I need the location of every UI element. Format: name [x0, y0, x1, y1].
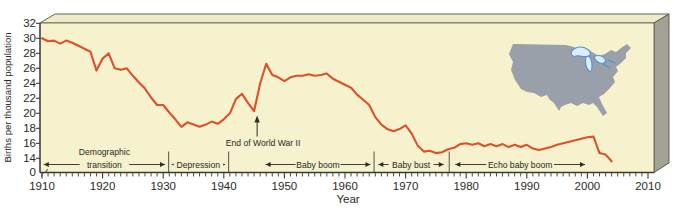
- x-tick-label-2000: 2000: [575, 180, 601, 192]
- period-label-demographic-transition-line1: Demographic: [79, 147, 131, 157]
- x-tick-label-1960: 1960: [332, 180, 358, 192]
- y-tick-label-22: 22: [23, 92, 36, 104]
- y-tick-label-16: 16: [23, 137, 36, 149]
- y-tick-label-14: 14: [23, 152, 36, 164]
- x-tick-label-1990: 1990: [514, 180, 540, 192]
- x-axis-ticks: 1910192019301940195019601970198019902000…: [29, 173, 661, 192]
- period-label-baby-bust: Baby bust: [392, 160, 431, 170]
- x-tick-label-2010: 2010: [635, 180, 661, 192]
- y-tick-label-24: 24: [23, 77, 36, 89]
- x-tick-label-1920: 1920: [90, 180, 116, 192]
- y-tick-label-32: 32: [23, 17, 36, 29]
- x-tick-label-1930: 1930: [150, 180, 176, 192]
- y-tick-label-18: 18: [23, 122, 36, 134]
- x-tick-label-1940: 1940: [211, 180, 237, 192]
- x-axis-title: Year: [336, 193, 359, 205]
- x-tick-label-1980: 1980: [453, 180, 479, 192]
- x-tick-label-1970: 1970: [393, 180, 419, 192]
- y-axis-title: Births per thousand population: [2, 32, 13, 162]
- x-tick-label-1950: 1950: [272, 180, 298, 192]
- period-label-demographic-transition: transition: [87, 160, 122, 170]
- y-tick-label-30: 30: [23, 32, 36, 44]
- y-tick-label-20: 20: [23, 107, 36, 119]
- period-depression: Depression: [172, 160, 225, 170]
- box-side-face: [654, 14, 669, 173]
- period-label-depression: Depression: [177, 160, 221, 170]
- period-label-baby-boom: Baby boom: [296, 160, 339, 170]
- y-tick-label-0: 0: [30, 166, 36, 178]
- y-tick-label-26: 26: [23, 62, 36, 74]
- period-label-echo-baby-boom: Echo baby boom: [488, 160, 553, 170]
- x-tick-label-1910: 1910: [29, 180, 55, 192]
- box-top-face: [40, 14, 669, 23]
- figure-us-birth-rate: 0141618202224262830321910192019301940195…: [0, 0, 675, 217]
- birth-rate-chart: 0141618202224262830321910192019301940195…: [0, 0, 675, 217]
- y-axis-ticks: 014161820222426283032: [23, 17, 40, 178]
- y-tick-label-28: 28: [23, 47, 36, 59]
- wwii-label: End of World War II: [226, 138, 301, 148]
